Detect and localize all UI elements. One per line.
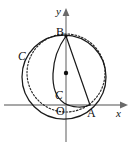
label-axis-y: y — [56, 6, 61, 17]
label-point-a: A — [87, 107, 96, 119]
figure-canvas — [0, 0, 137, 146]
label-axis-x: x — [116, 108, 121, 119]
label-point-b: B — [56, 26, 64, 38]
point-b-dot — [64, 34, 67, 37]
label-curve-inner: C — [55, 90, 63, 102]
label-curve-outer: C — [18, 51, 26, 63]
chord-segment-BA — [66, 36, 90, 105]
y-axis-arrowhead — [63, 8, 70, 16]
label-origin: O — [56, 105, 65, 117]
circle-center-dot — [64, 71, 68, 75]
geometry-figure: B A O x y C C — [0, 0, 137, 146]
x-axis-arrowhead — [120, 102, 128, 109]
